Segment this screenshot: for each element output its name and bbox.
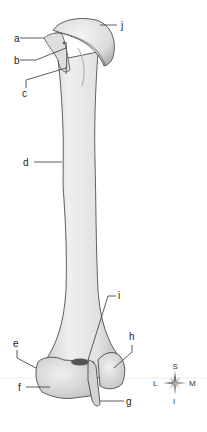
compass-lateral: L	[153, 379, 158, 388]
medial-epicondyle	[98, 353, 125, 389]
humerus-diagram: a b c d e f g h i j S I L M	[0, 0, 207, 432]
leader-e	[17, 350, 36, 368]
label-d: d	[23, 157, 29, 168]
humerus-shaft	[40, 52, 122, 378]
label-b: b	[14, 55, 20, 66]
compass-star-icon	[163, 371, 187, 395]
label-c: c	[22, 88, 27, 99]
coronoid-fossa	[71, 359, 89, 366]
compass-inferior: I	[173, 397, 175, 406]
groove-mark	[63, 42, 65, 44]
label-e: e	[13, 338, 19, 349]
label-a: a	[14, 33, 20, 44]
label-j: j	[120, 20, 123, 31]
label-g: g	[126, 396, 132, 407]
label-h: h	[129, 331, 135, 342]
compass-superior: S	[173, 362, 178, 371]
label-i: i	[118, 290, 120, 301]
label-f: f	[18, 382, 21, 393]
compass-medial: M	[189, 379, 196, 388]
compass-rose: S I L M	[153, 362, 196, 406]
